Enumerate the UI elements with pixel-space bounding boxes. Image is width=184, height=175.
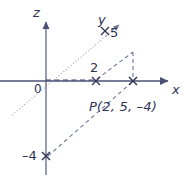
- y-axis-label: y: [98, 13, 106, 26]
- point-p-label: P(2, 5, –4): [89, 100, 157, 113]
- guide-x2-to-projection: [97, 52, 133, 79]
- y-value-label: 5: [110, 26, 118, 39]
- x-axis-label: x: [172, 83, 180, 96]
- coordinate-system-figure: z y x 0 5 2 –4 P(2, 5, –4): [0, 0, 184, 175]
- guide-z4-to-point: [48, 83, 131, 156]
- origin-label: 0: [34, 83, 42, 95]
- x-value-label: 2: [90, 61, 98, 74]
- marker-y-5: [101, 27, 109, 35]
- z-value-label: –4: [22, 149, 37, 162]
- z-axis-label: z: [33, 6, 40, 19]
